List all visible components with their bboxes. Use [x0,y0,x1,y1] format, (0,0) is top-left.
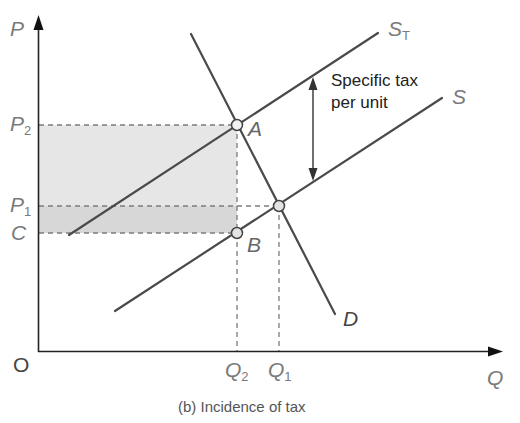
origin-label: O [13,354,29,375]
q2-label: Q2 [225,359,249,383]
p2-label: P2 [10,113,31,137]
tax-annotation-line2: per unit [331,92,418,114]
consumer-tax-burden-area [39,125,237,206]
y-axis-label: P [10,18,24,39]
x-axis-arrow-icon [488,347,503,357]
point-a-marker [232,120,243,131]
point-b-marker [232,228,243,239]
point-b-label: B [247,234,261,255]
p1-label: P1 [10,194,31,218]
supply-label: S [452,86,466,107]
x-axis-label: Q [487,367,503,388]
taxed-supply-label: ST [388,18,410,42]
producer-tax-burden-area [39,206,237,233]
q1-label: Q1 [268,359,292,383]
tax-arrow [309,77,318,181]
equilibrium-point-marker [274,201,285,212]
demand-label: D [343,308,358,329]
point-a-label: A [248,118,262,139]
figure-caption: (b) Incidence of tax [178,398,306,415]
y-axis-arrow-icon [34,15,44,30]
arrow-up-icon [309,77,318,90]
tax-annotation-line1: Specific tax [331,70,418,92]
c-label: C [11,222,26,243]
tax-incidence-diagram [0,0,520,423]
tax-annotation: Specific tax per unit [331,70,418,114]
